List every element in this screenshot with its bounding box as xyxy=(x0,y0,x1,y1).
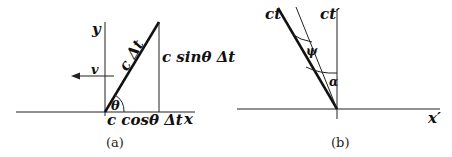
horizontal-side-label: c cosθ Δt xyxy=(107,111,183,129)
ct-label: ct xyxy=(265,5,281,23)
theta-label: θ xyxy=(111,98,120,113)
x-prime-label: x′ xyxy=(427,109,441,127)
psi-label: ψ xyxy=(306,44,318,58)
hypotenuse-label: c Δt xyxy=(115,37,147,75)
caption-b: (b) xyxy=(331,135,349,150)
ct-prime-label: ct′ xyxy=(320,5,340,23)
panel-b: ct ct′ x′ ψ α (b) xyxy=(237,5,441,150)
panel-a: y x v c Δt c sinθ Δt c cosθ Δt θ (a) xyxy=(16,20,235,150)
caption-a: (a) xyxy=(106,135,124,150)
velocity-label: v xyxy=(91,62,99,77)
y-axis-label: y xyxy=(91,20,102,38)
vertical-side-label: c sinθ Δt xyxy=(162,48,235,66)
alpha-label: α xyxy=(329,75,338,89)
diagram-canvas: y x v c Δt c sinθ Δt c cosθ Δt θ (a) ct … xyxy=(0,0,452,157)
x-axis-label: x xyxy=(183,110,194,128)
velocity-arrow-head-icon xyxy=(71,73,80,80)
ct-worldline xyxy=(278,8,337,109)
